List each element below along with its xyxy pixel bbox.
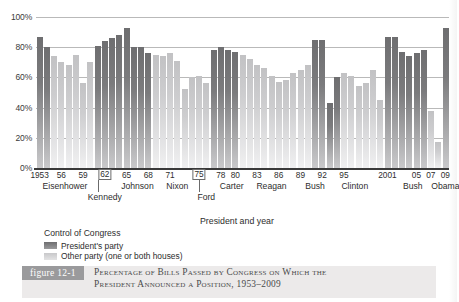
bar-2004 (406, 56, 412, 168)
bar-2005 (414, 53, 420, 168)
y-axis-labels: 0%20%40%60%80%100% (0, 0, 34, 180)
bar-1976 (203, 83, 209, 168)
era-divider-1 (199, 180, 200, 192)
bar-1954 (44, 47, 50, 168)
president-label-ford: Ford (197, 192, 215, 202)
bar-1989 (298, 70, 304, 168)
president-label-bush: Bush (403, 181, 423, 191)
legend-label-presidents-party: President's party (61, 241, 123, 251)
x-tick-75: 75 (192, 169, 205, 180)
bar-1964 (116, 35, 122, 168)
bar-1968 (145, 53, 151, 168)
x-tick-80: 80 (231, 170, 240, 180)
bar-1994 (334, 77, 340, 168)
legend-item-presidents-party: President's party (44, 241, 183, 250)
bar-1987 (283, 80, 289, 168)
bar-2002 (392, 37, 398, 168)
bar-1978 (218, 47, 224, 168)
x-tick-05: 05 (412, 170, 421, 180)
bar-1971 (167, 53, 173, 168)
bar-1985 (269, 76, 275, 168)
x-tick-92: 92 (318, 170, 327, 180)
president-label-obama: Obama (431, 181, 459, 191)
figure-number-badge: figure 12-1 (22, 266, 84, 280)
x-tick-68: 68 (144, 170, 153, 180)
bar-1977 (211, 50, 217, 168)
bar-1983 (254, 65, 260, 168)
bar-2000 (377, 100, 383, 168)
bar-1991 (312, 40, 318, 168)
x-tick-86: 86 (274, 170, 283, 180)
bar-1959 (80, 83, 86, 168)
president-label-kennedy: Kennedy (88, 192, 122, 202)
x-tick-59: 59 (78, 170, 87, 180)
chart-canvas (36, 17, 449, 168)
x-tick-1953: 1953 (30, 170, 48, 180)
bar-2001 (385, 37, 391, 168)
legend-item-other-party: Other party (one or both houses) (44, 252, 183, 261)
era-divider-0 (98, 180, 99, 192)
y-axis-tick-100: 100% (11, 12, 32, 22)
bar-1999 (370, 70, 376, 168)
caption-line-1: Percentage of Bills Passed by Congress o… (94, 267, 432, 279)
bar-2008 (435, 142, 441, 168)
x-tick-09: 09 (441, 170, 450, 180)
bar-1965 (124, 28, 130, 168)
figure-caption: Percentage of Bills Passed by Congress o… (94, 267, 432, 290)
bar-1992 (319, 40, 325, 168)
president-label-bush: Bush (305, 181, 325, 191)
x-tick-62: 62 (98, 169, 111, 180)
x-tick-78: 78 (216, 170, 225, 180)
bar-1993 (327, 103, 333, 168)
legend-swatch-president-icon (44, 242, 57, 249)
legend-title: Control of Congress (44, 228, 183, 238)
bar-1956 (58, 62, 64, 168)
x-tick-2001: 2001 (378, 170, 396, 180)
bar-1955 (51, 56, 57, 168)
bar-2007 (428, 111, 434, 168)
y-axis-tick-80: 80% (16, 42, 32, 52)
bar-1979 (225, 50, 231, 168)
bar-2006 (421, 50, 427, 168)
bar-2009 (443, 28, 449, 168)
bar-2003 (399, 52, 405, 168)
bar-1975 (196, 76, 202, 168)
bar-1981 (240, 55, 246, 168)
president-label-carter: Carter (220, 181, 244, 191)
bar-1967 (138, 47, 144, 168)
president-label-clinton: Clinton (341, 181, 368, 191)
bar-1973 (182, 89, 188, 168)
bar-1969 (153, 55, 159, 168)
bar-1998 (363, 83, 369, 168)
bar-1957 (66, 65, 72, 168)
bar-1997 (356, 86, 362, 168)
x-tick-89: 89 (296, 170, 305, 180)
x-tick-56: 56 (57, 170, 66, 180)
president-label-johnson: Johnson (121, 181, 154, 191)
caption-line-2: President Announced a Position, 1953–200… (94, 279, 432, 291)
bar-1995 (341, 73, 347, 168)
bar-1966 (131, 47, 137, 168)
x-tick-95: 95 (339, 170, 348, 180)
bar-1984 (261, 68, 267, 168)
bar-1972 (174, 61, 180, 168)
bar-1960 (87, 62, 93, 168)
bar-1970 (160, 56, 166, 168)
bar-1953 (37, 37, 43, 168)
bar-series (36, 17, 449, 168)
x-tick-65: 65 (122, 170, 131, 180)
bar-1980 (232, 52, 238, 168)
bar-1958 (73, 55, 79, 168)
bar-1974 (189, 77, 195, 168)
president-label-nixon: Nixon (166, 181, 188, 191)
president-label-reagan: Reagan (256, 181, 286, 191)
y-axis-tick-20: 20% (16, 133, 32, 143)
chart-plot-area: 0%20%40%60%80%100% 195356596265687175788… (0, 0, 457, 180)
president-label-eisenhower: Eisenhower (43, 181, 88, 191)
bar-1963 (109, 38, 115, 168)
bar-1996 (348, 76, 354, 168)
y-axis-tick-60: 60% (16, 72, 32, 82)
bar-1982 (247, 59, 253, 168)
x-tick-07: 07 (426, 170, 435, 180)
